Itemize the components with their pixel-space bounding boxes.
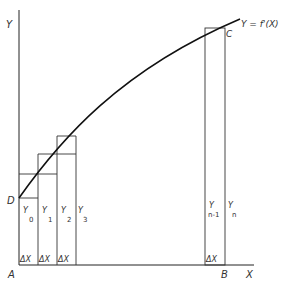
delta-x-3: ΔX (57, 255, 69, 264)
yn-label: Y n (228, 201, 236, 219)
yn-minus-1-label: Y n-1 (208, 201, 219, 219)
origin-label-a: A (7, 269, 15, 280)
svg-text:n-1: n-1 (208, 211, 219, 219)
y-axis-label: Y (6, 19, 13, 30)
y1-label: Y 1 (42, 206, 52, 224)
delta-x-1: ΔX (19, 255, 31, 264)
y3-label: Y 3 (78, 206, 87, 224)
svg-text:Y: Y (78, 206, 84, 215)
point-label-d: D (7, 195, 15, 206)
x-axis-label: X (245, 269, 254, 280)
y0-label: Y 0 (23, 206, 33, 224)
svg-text:Y: Y (42, 206, 48, 215)
strip-lines (19, 28, 225, 265)
curve-f-prime (19, 19, 240, 198)
delta-x-n: ΔX (205, 255, 217, 264)
diagram-canvas: Y X A B D C Y = f'(X) Y 0 Y 1 Y 2 Y 3 Y … (0, 0, 289, 284)
svg-text:n: n (232, 211, 236, 219)
svg-text:3: 3 (83, 216, 87, 224)
point-label-c: C (226, 29, 233, 39)
svg-text:Y: Y (23, 206, 29, 215)
end-label-b: B (221, 269, 228, 280)
svg-text:2: 2 (67, 216, 71, 224)
delta-x-2: ΔX (38, 255, 50, 264)
svg-text:1: 1 (48, 216, 52, 224)
curve-label: Y = f'(X) (241, 19, 279, 29)
svg-text:0: 0 (29, 216, 33, 224)
svg-text:Y: Y (61, 206, 67, 215)
svg-text:Y: Y (209, 201, 215, 210)
y2-label: Y 2 (61, 206, 71, 224)
svg-text:Y: Y (228, 201, 234, 210)
